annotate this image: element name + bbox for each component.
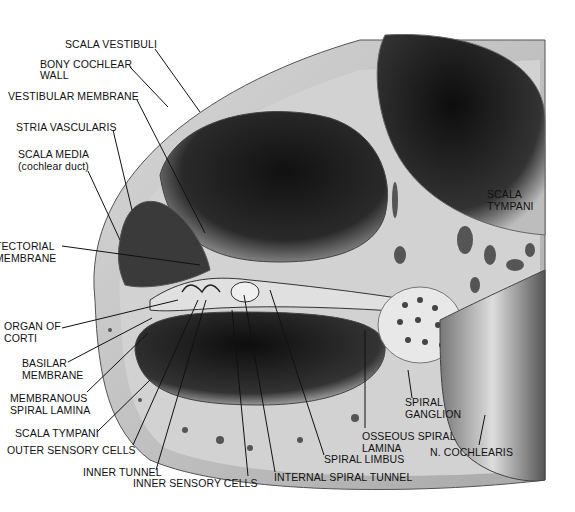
label-spiral-ganglion: SPIRAL bbox=[405, 396, 443, 408]
label-scala-tympani-right-line2: TYMPANI bbox=[487, 200, 534, 212]
label-spiral-limbus: SPIRAL LIMBUS bbox=[324, 453, 404, 465]
label-membranous-spiral-lamina: MEMBRANOUS bbox=[10, 392, 87, 404]
label-organ-of-corti: ORGAN OF bbox=[4, 320, 61, 332]
label-membranous-spiral-lamina-line2: SPIRAL LAMINA bbox=[10, 404, 90, 416]
label-internal-spiral-tunnel: INTERNAL SPIRAL TUNNEL bbox=[274, 471, 412, 483]
label-scala-tympani-left: SCALA TYMPANI bbox=[15, 427, 99, 439]
label-osseous-spiral-lamina: OSSEOUS SPIRAL bbox=[362, 430, 456, 442]
cochlea-diagram: SCALA VESTIBULI BONY COCHLEAR WALL VESTI… bbox=[0, 0, 575, 512]
label-scala-tympani-right: SCALA bbox=[487, 188, 522, 200]
scala-tympani-lower bbox=[135, 312, 385, 405]
label-scala-media-line2: (cochlear duct) bbox=[18, 160, 89, 172]
label-inner-sensory-cells: INNER SENSORY CELLS bbox=[133, 477, 258, 489]
label-n-cochlearis: N. COCHLEARIS bbox=[430, 446, 513, 458]
label-stria-vascularis: STRIA VASCULARIS bbox=[16, 121, 117, 133]
label-basilar-membrane: BASILAR bbox=[22, 357, 67, 369]
label-basilar-membrane-line2: MEMBRANE bbox=[22, 369, 83, 381]
label-vestibular-membrane: VESTIBULAR MEMBRANE bbox=[8, 90, 139, 102]
label-spiral-ganglion-line2: GANGLION bbox=[405, 408, 461, 420]
label-scala-vestibuli: SCALA VESTIBULI bbox=[65, 38, 157, 50]
label-tectorial-membrane: TECTORIAL bbox=[0, 240, 55, 252]
label-bony-cochlear-wall-line2: WALL bbox=[40, 69, 69, 81]
label-scala-media: SCALA MEDIA bbox=[18, 148, 89, 160]
label-osseous-spiral-lamina-line2: LAMINA bbox=[362, 442, 402, 454]
label-organ-of-corti-line2: CORTI bbox=[4, 332, 37, 344]
label-tectorial-membrane-line2: MEMBRANE bbox=[0, 252, 56, 264]
label-outer-sensory-cells: OUTER SENSORY CELLS bbox=[7, 444, 136, 456]
